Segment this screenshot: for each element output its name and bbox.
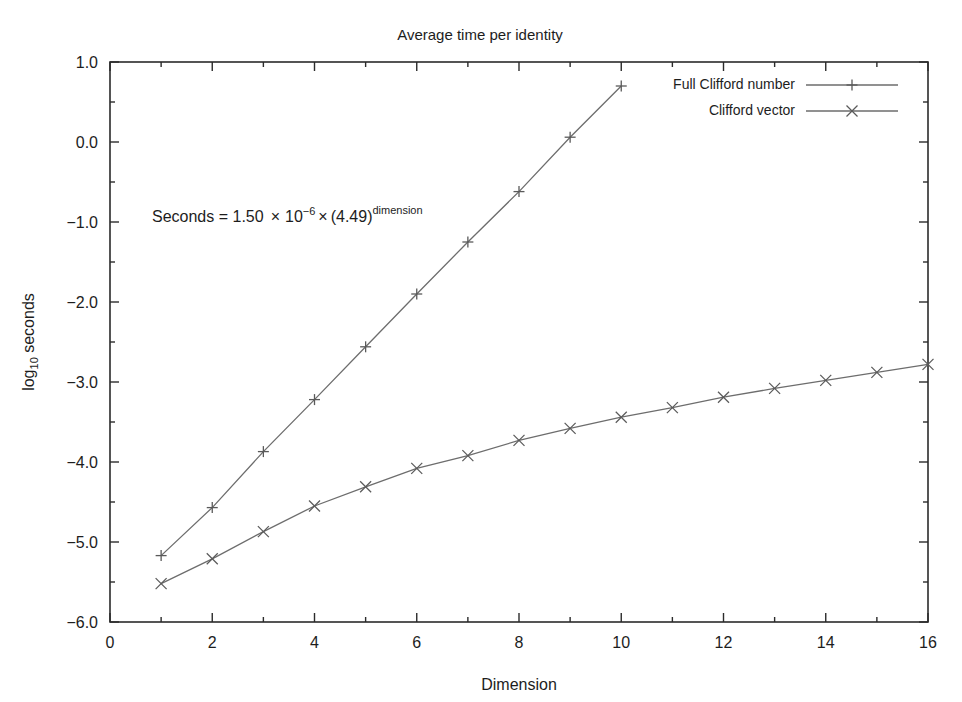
annotation-exponent: −6 [303,205,316,217]
annotation-power: dimension [372,204,422,216]
y-tick-label: −1.0 [66,214,98,231]
y-tick-label: 1.0 [76,54,98,71]
y-tick-label: −2.0 [66,294,98,311]
y-tick-label: −5.0 [66,534,98,551]
x-tick-label: 12 [715,634,733,651]
y-tick-label: −4.0 [66,454,98,471]
chart-figure: Average time per identity 1.00.0−1.0−2.0… [0,0,962,702]
x-axis-label: Dimension [481,676,557,693]
y-axis-label-rest: seconds [20,293,37,357]
annotation-lead: Seconds = 1.50 [152,208,264,225]
x-tick-label: 6 [412,634,421,651]
y-axis-label-sub: 10 [28,357,40,369]
x-tick-label: 16 [919,634,937,651]
annotation-times-2: × [318,208,327,225]
x-tick-label: 4 [310,634,319,651]
x-tick-label: 2 [208,634,217,651]
legend-item-label-0: Full Clifford number [673,76,795,92]
y-axis-label-main: log [20,369,37,390]
y-tick-label: −3.0 [66,374,98,391]
annotation-paren: (4.49) [331,208,373,225]
chart-svg: Average time per identity 1.00.0−1.0−2.0… [0,0,962,702]
x-tick-label: 14 [817,634,835,651]
annotation-times-1: × [271,208,280,225]
y-tick-label: −6.0 [66,614,98,631]
x-tick-label: 8 [515,634,524,651]
annotation-base: 10 [285,208,303,225]
chart-background [0,0,962,702]
x-tick-label: 0 [106,634,115,651]
chart-title: Average time per identity [397,26,563,43]
x-tick-label: 10 [612,634,630,651]
y-tick-label: 0.0 [76,134,98,151]
legend-item-label-1: Clifford vector [709,102,795,118]
